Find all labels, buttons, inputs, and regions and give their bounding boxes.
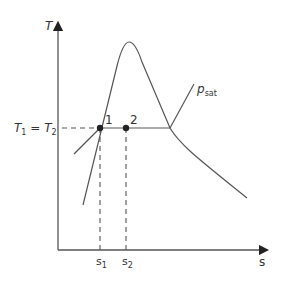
psat-label: psat [196,82,217,98]
state-point-2 [123,125,129,131]
s2-label: s2 [122,255,133,270]
point-1-label: 1 [105,113,113,127]
axis-label-s: s [259,255,265,269]
temperature-label: T1 = T2 [14,121,57,137]
ts-diagram: T s s T1 = T2 1 2 s1 s2 psat [0,0,298,281]
s1-label: s1 [96,255,107,270]
isobar-vapor-segment [170,84,194,128]
point-2-label: 2 [130,113,138,127]
state-point-1 [97,125,103,131]
y-axis-label: T [45,19,54,33]
